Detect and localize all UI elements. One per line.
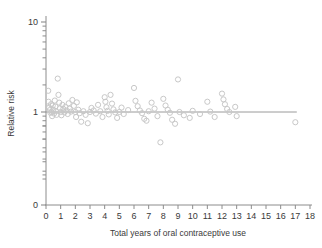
data-point — [108, 92, 113, 97]
x-tick-label: 9 — [175, 211, 180, 221]
data-point — [95, 102, 100, 107]
data-point — [187, 115, 192, 120]
data-point — [158, 140, 163, 145]
y-tick-label: 10 — [28, 17, 38, 27]
x-tick-label: 16 — [276, 211, 286, 221]
x-tick-label: 14 — [246, 211, 256, 221]
x-tick-label: 13 — [232, 211, 242, 221]
x-axis-title: Total years of oral contraceptive use — [110, 228, 246, 238]
data-point — [212, 114, 217, 119]
data-points-group — [46, 76, 298, 145]
data-point — [146, 109, 151, 114]
data-point — [56, 92, 61, 97]
data-point — [109, 101, 114, 106]
x-tick-label: 12 — [217, 211, 227, 221]
x-tick-label: 11 — [203, 211, 212, 221]
data-point — [85, 121, 90, 126]
x-tick-label: 15 — [261, 211, 271, 221]
x-tick-label: 2 — [73, 211, 78, 221]
y-tick-label: 1 — [33, 107, 38, 117]
data-point — [190, 108, 195, 113]
y-axis-title: Relative risk — [6, 90, 16, 137]
data-point — [152, 106, 157, 111]
x-tick-label: 5 — [117, 211, 122, 221]
data-point — [181, 113, 186, 118]
x-tick-label: 7 — [146, 211, 151, 221]
scatter-chart-figure: 01100123456789101112131415161718Total ye… — [0, 0, 322, 248]
data-point — [155, 114, 160, 119]
data-point — [131, 85, 136, 90]
data-point — [71, 103, 76, 108]
data-point — [55, 76, 60, 81]
data-point — [133, 98, 138, 103]
x-tick-label: 6 — [131, 211, 136, 221]
data-point — [233, 104, 238, 109]
x-tick-label: 18 — [305, 211, 315, 221]
x-tick-label: 4 — [102, 211, 107, 221]
x-tick-label: 3 — [87, 211, 92, 221]
data-point — [119, 105, 124, 110]
x-tick-label: 8 — [161, 211, 166, 221]
x-tick-label: 17 — [290, 211, 300, 221]
data-point — [175, 77, 180, 82]
x-tick-label: 10 — [188, 211, 198, 221]
data-point — [234, 114, 239, 119]
data-point — [172, 121, 177, 126]
data-point — [98, 109, 103, 114]
data-point — [219, 91, 224, 96]
data-point — [149, 100, 154, 105]
x-tick-label: 1 — [58, 211, 63, 221]
data-point — [293, 120, 298, 125]
data-point — [79, 119, 84, 124]
data-point — [100, 114, 105, 119]
data-point — [115, 115, 120, 120]
data-point — [74, 100, 79, 105]
data-point — [205, 99, 210, 104]
data-point — [161, 96, 166, 101]
y-tick-label: 0 — [33, 200, 38, 210]
scatter-plot-svg: 01100123456789101112131415161718Total ye… — [0, 0, 322, 248]
x-tick-label: 0 — [43, 211, 48, 221]
